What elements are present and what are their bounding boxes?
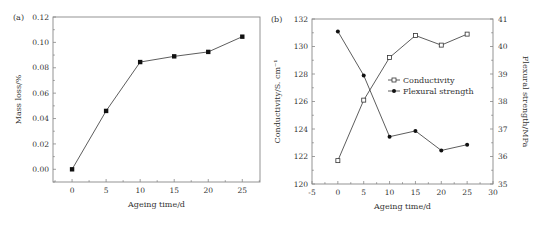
filled-square-marker xyxy=(104,109,108,113)
y-right-axis-label: Flexural strength/MPa xyxy=(521,56,530,148)
y-tick-label: 0.10 xyxy=(32,38,49,47)
filled-square-marker xyxy=(240,34,244,38)
series-mass-loss xyxy=(70,34,245,171)
open-square-marker xyxy=(439,43,443,47)
legend-label: Conductivity xyxy=(403,76,455,85)
y-right-tick-label: 35 xyxy=(498,180,508,189)
panel-b-conductivity-flexural-chart: (b)-505101520253012012212412612813013235… xyxy=(271,15,530,211)
filled-circle-marker xyxy=(388,135,392,139)
series-line xyxy=(338,34,467,161)
y-axis-label: Mass loss/% xyxy=(14,74,23,124)
x-tick-label: 0 xyxy=(70,186,75,195)
filled-circle-marker xyxy=(465,143,469,147)
filled-circle-marker xyxy=(413,129,417,133)
y-right-tick-label: 36 xyxy=(498,152,508,161)
y-right-tick-label: 39 xyxy=(498,70,508,79)
open-square-marker xyxy=(413,34,417,38)
legend: ConductivityFlexural strength xyxy=(388,76,474,96)
x-axis-label: Ageing time/d xyxy=(373,202,431,211)
chart-canvas: (a)05101520250.000.020.040.060.080.100.1… xyxy=(0,0,540,226)
y-tick-label: 0.00 xyxy=(32,165,49,174)
figure: (a)05101520250.000.020.040.060.080.100.1… xyxy=(0,0,540,226)
legend-label: Flexural strength xyxy=(403,87,474,96)
x-tick-label: 15 xyxy=(169,186,179,195)
y-right-tick-label: 40 xyxy=(498,42,508,51)
filled-square-marker xyxy=(70,167,74,171)
open-square-marker xyxy=(392,78,396,82)
panel-label: (b) xyxy=(271,15,282,24)
filled-circle-marker xyxy=(362,73,366,77)
x-tick-label: 10 xyxy=(385,188,395,197)
y-tick-label: 0.06 xyxy=(32,89,49,98)
y-tick-label: 122 xyxy=(294,152,309,161)
x-tick-label: -5 xyxy=(308,188,316,197)
y-right-tick-label: 37 xyxy=(498,125,508,134)
x-tick-label: 10 xyxy=(135,186,145,195)
panel-label: (a) xyxy=(13,13,24,22)
open-square-marker xyxy=(388,56,392,60)
x-tick-label: 15 xyxy=(411,188,421,197)
panel-a-mass-loss-chart: (a)05101520250.000.020.040.060.080.100.1… xyxy=(13,13,260,209)
y-tick-label: 0.08 xyxy=(32,63,49,72)
y-tick-label: 124 xyxy=(294,125,309,134)
y-right-tick-label: 41 xyxy=(498,15,508,24)
y-tick-label: 132 xyxy=(294,15,309,24)
series-conductivity xyxy=(336,32,469,163)
filled-circle-marker xyxy=(392,89,396,93)
filled-square-marker xyxy=(172,54,176,58)
series-line xyxy=(72,37,242,170)
open-square-marker xyxy=(465,32,469,36)
x-tick-label: 5 xyxy=(361,188,366,197)
open-square-marker xyxy=(362,98,366,102)
y-tick-label: 120 xyxy=(294,180,309,189)
y-tick-label: 130 xyxy=(294,42,309,51)
y-tick-label: 0.02 xyxy=(32,140,49,149)
plot-frame xyxy=(53,17,260,182)
y-tick-label: 0.04 xyxy=(32,114,49,123)
filled-square-marker xyxy=(206,50,210,54)
filled-square-marker xyxy=(138,60,142,64)
open-square-marker xyxy=(336,159,340,163)
y-tick-label: 126 xyxy=(294,97,309,106)
x-tick-label: 25 xyxy=(462,188,472,197)
filled-circle-marker xyxy=(336,29,340,33)
y-tick-label: 0.12 xyxy=(32,13,49,22)
x-tick-label: 25 xyxy=(238,186,248,195)
y-tick-label: 128 xyxy=(294,70,309,79)
filled-circle-marker xyxy=(439,148,443,152)
x-tick-label: 30 xyxy=(488,188,498,197)
x-tick-label: 0 xyxy=(335,188,340,197)
y-axis-label: Conductivity/S. cm⁻¹ xyxy=(273,60,282,144)
x-tick-label: 5 xyxy=(104,186,109,195)
x-tick-label: 20 xyxy=(203,186,213,195)
x-axis-label: Ageing time/d xyxy=(127,200,185,209)
x-tick-label: 20 xyxy=(437,188,447,197)
y-right-tick-label: 38 xyxy=(498,97,508,106)
